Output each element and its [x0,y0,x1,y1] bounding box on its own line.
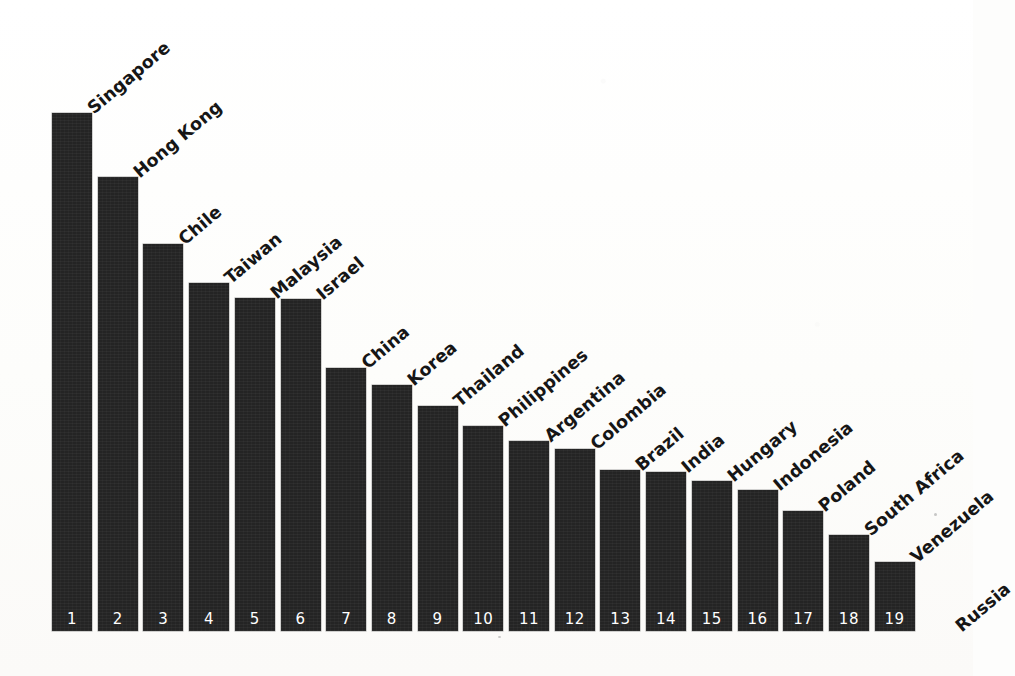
scan-speck [934,513,937,516]
bar: 3 [143,244,183,631]
category-label: Brazil [633,425,688,475]
bar-rank-number: 12 [555,612,595,627]
bar: 15 [692,481,732,631]
bar-rank-number: 7 [326,612,366,627]
bar: 1 [52,113,92,631]
bar-rank-number: 16 [738,612,778,627]
bar: 6 [281,299,321,631]
bar: 16 [738,490,778,631]
bar-rank-number: 17 [783,612,823,627]
bar-rank-number: 19 [875,612,915,627]
bar-rank-number: 14 [646,612,686,627]
category-label: Chile [176,203,225,248]
bar: 7 [326,368,366,631]
bar: 17 [783,511,823,631]
bar-rank-number: 5 [235,612,275,627]
bar-rank-number: 9 [418,612,458,627]
bar: 12 [555,449,595,631]
bar: 5 [235,298,275,631]
category-label: China [359,323,413,372]
bar: 2 [98,177,138,631]
bar-rank-number: 1 [52,612,92,627]
bar: 10 [463,426,503,631]
category-label: Russia [953,580,1014,635]
bar: 11 [509,441,549,631]
bar: 19 [875,562,915,631]
bar-rank-number: 13 [600,612,640,627]
bar: 13 [600,470,640,631]
bar-rank-number: 4 [189,612,229,627]
bar-rank-number: 15 [692,612,732,627]
bar: 9 [418,406,458,631]
bar-rank-number: 6 [281,612,321,627]
bar-rank-number: 3 [143,612,183,627]
category-label: Singapore [85,39,174,118]
bar: 8 [372,385,412,631]
bar-rank-number: 10 [463,612,503,627]
bar-rank-number: 11 [509,612,549,627]
category-label: Hong Kong [130,98,225,181]
bar-rank-number: 2 [98,612,138,627]
scan-speck [498,636,501,638]
bar: 14 [646,472,686,631]
category-label: Poland [816,458,880,515]
bar-rank-number: 18 [829,612,869,627]
category-label: Korea [405,339,461,390]
bar: 18 [829,535,869,631]
bar-rank-number: 8 [372,612,412,627]
bar: 4 [189,283,229,631]
